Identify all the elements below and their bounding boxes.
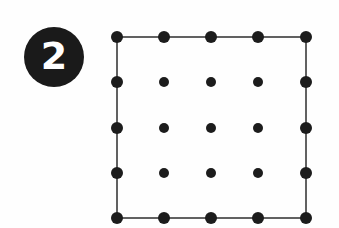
grid-dot: [111, 122, 123, 134]
grid-dot: [253, 77, 263, 87]
grid-dot: [300, 212, 312, 224]
grid-dot: [205, 31, 217, 43]
grid-dot: [158, 212, 170, 224]
grid-dot: [111, 167, 123, 179]
grid-dot: [159, 168, 169, 178]
grid-dot: [252, 31, 264, 43]
grid-dot: [159, 77, 169, 87]
grid-dot: [159, 123, 169, 133]
puzzle-figure: 2: [0, 0, 339, 228]
grid-dot: [300, 31, 312, 43]
grid-dot: [252, 212, 264, 224]
dot-grid: [0, 0, 339, 228]
grid-dot: [253, 168, 263, 178]
grid-dot: [300, 76, 312, 88]
grid-dot: [111, 76, 123, 88]
grid-dot: [300, 122, 312, 134]
grid-dot: [158, 31, 170, 43]
grid-dot: [111, 31, 123, 43]
grid-dot: [111, 212, 123, 224]
grid-dot: [206, 123, 216, 133]
grid-dot: [206, 77, 216, 87]
grid-dot: [300, 167, 312, 179]
grid-dot: [206, 168, 216, 178]
grid-dot: [253, 123, 263, 133]
grid-dot: [205, 212, 217, 224]
